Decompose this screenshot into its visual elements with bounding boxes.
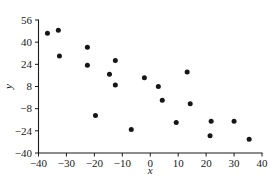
data-point [113, 83, 118, 88]
y-tick-label: 8 [27, 80, 33, 92]
scatter-plot-canvas: −40−24−88244056 −40−30−20−10010203040 y … [0, 0, 270, 177]
data-point [107, 72, 112, 77]
x-tick-label: −10 [114, 157, 132, 169]
data-point [156, 84, 161, 89]
x-tick-label: −40 [30, 157, 48, 169]
data-point [85, 45, 90, 50]
y-tick-label: 56 [21, 14, 33, 26]
data-point-group [45, 28, 252, 142]
y-tick-label: 40 [21, 36, 33, 48]
axes-group [39, 20, 263, 153]
y-tick-label: 24 [21, 58, 33, 70]
x-tick-label: 40 [257, 157, 269, 169]
data-point [174, 120, 179, 125]
data-point [93, 113, 98, 118]
data-point [85, 63, 90, 68]
data-point [208, 133, 213, 138]
data-point [142, 75, 147, 80]
y-axis-title: y [2, 84, 14, 90]
scatter-plot-figure: −40−24−88244056 −40−30−20−10010203040 y … [0, 0, 270, 177]
y-axis-tick-labels: −40−24−88244056 [15, 14, 33, 159]
x-tick-label: 10 [173, 157, 185, 169]
x-tick-label: 20 [201, 157, 213, 169]
x-axis-title: x [147, 164, 153, 176]
data-point [247, 137, 252, 142]
data-point [56, 28, 61, 33]
y-tick-label: −24 [15, 125, 33, 137]
data-point [113, 58, 118, 63]
x-tick-label: −30 [58, 157, 76, 169]
x-tick-label: −20 [86, 157, 104, 169]
data-point [185, 69, 190, 74]
data-point [160, 98, 165, 103]
data-point [232, 119, 237, 124]
data-point [209, 119, 214, 124]
data-point [129, 127, 134, 132]
data-point [57, 54, 62, 59]
data-point [45, 31, 50, 36]
y-tick-label: −8 [20, 102, 32, 114]
data-point [188, 101, 193, 106]
x-tick-label: 30 [229, 157, 241, 169]
